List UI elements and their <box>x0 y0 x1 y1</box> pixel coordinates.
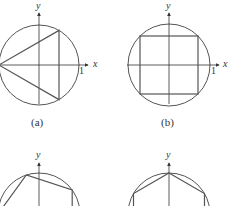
tick-label-one: 1 <box>211 66 216 76</box>
panel-caption: (a) <box>31 117 43 128</box>
panel-b <box>127 13 219 106</box>
y-axis-label: y <box>166 150 170 160</box>
panel-c <box>0 163 80 206</box>
y-axis-label: y <box>36 1 40 11</box>
panel-caption: (b) <box>161 117 174 128</box>
x-axis-label: x <box>223 59 227 69</box>
inscribed-polygons-figure <box>0 0 233 206</box>
panel-d <box>128 163 210 206</box>
tick-label-one: 1 <box>79 66 84 76</box>
panel-a <box>0 13 88 105</box>
y-axis-label: y <box>166 1 170 11</box>
x-axis-label: x <box>93 59 97 69</box>
unit-circle <box>0 173 80 206</box>
y-axis-label: y <box>36 150 40 160</box>
